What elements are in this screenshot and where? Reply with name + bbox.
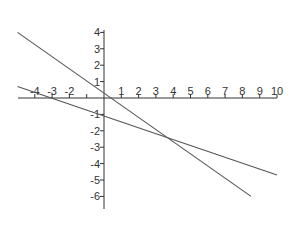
y-tick-label: -3 [90, 141, 100, 153]
y-tick-label: 2 [94, 59, 100, 71]
x-tick-label: 8 [239, 85, 245, 97]
y-tick-label: -6 [90, 190, 100, 202]
y-ticks: 4321-1-2-3-4-5-6 [90, 26, 104, 202]
x-tick-label: 6 [205, 85, 211, 97]
x-tick-label: 5 [187, 85, 193, 97]
x-tick-label: 2 [136, 85, 142, 97]
y-tick-label: 1 [94, 76, 100, 88]
y-tick-label: 3 [94, 43, 100, 55]
line-shallow [18, 87, 278, 176]
x-tick-label: 4 [170, 85, 176, 97]
coordinate-plane: -4-3-212345678910 4321-1-2-3-4-5-6 [0, 0, 297, 227]
y-tick-label: -5 [90, 174, 100, 186]
y-tick-label: -4 [90, 158, 100, 170]
x-tick-label: -2 [65, 85, 75, 97]
x-tick-label: 1 [118, 85, 124, 97]
x-tick-label: 7 [222, 85, 228, 97]
x-tick-label: 3 [153, 85, 159, 97]
y-tick-label: 4 [94, 26, 100, 38]
x-ticks: -4-3-212345678910 [30, 85, 283, 98]
axes [18, 30, 277, 209]
x-tick-label: -3 [47, 85, 57, 97]
plotted-lines [18, 32, 278, 196]
x-tick-label: 10 [271, 85, 283, 97]
x-tick-label: 9 [257, 85, 263, 97]
line-steep [18, 32, 252, 196]
y-tick-label: -2 [90, 125, 100, 137]
